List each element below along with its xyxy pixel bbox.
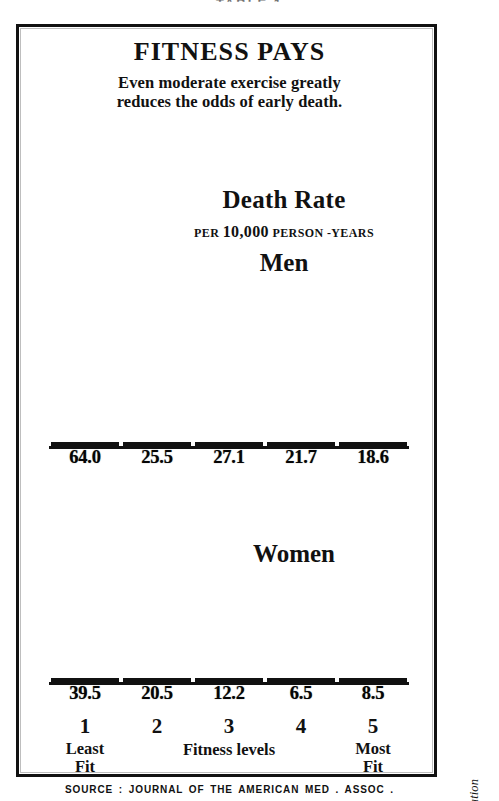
most-fit-line-2: Fit: [337, 758, 409, 776]
bar-value-men-1: 64.0: [53, 447, 117, 468]
axis-caption-most-fit: Most Fit: [337, 740, 409, 776]
axis-baseline-women: [49, 682, 409, 685]
credit-journal: Journal of the American Medical Associat…: [467, 779, 481, 801]
bar-value-women-3: 12.2: [197, 683, 261, 704]
x-axis-tick-labels: 1 2 3 4 5: [49, 714, 409, 739]
axis-title-fitness-levels: Fitness levels: [121, 740, 337, 759]
bar-panel-men: 64.0 25.5 27.1 21.7 18.6: [49, 104, 409, 449]
bar-value-women-2: 20.5: [125, 683, 189, 704]
least-fit-line-1: Least: [49, 740, 121, 758]
bar-value-men-4: 21.7: [269, 447, 333, 468]
x-tick-2: 2: [121, 714, 193, 739]
bar-panel-women: 39.5 20.5 12.2 6.5 8.5: [49, 470, 409, 685]
bar-group-men: 64.0 25.5 27.1 21.7 18.6: [49, 104, 409, 446]
bar-value-women-1: 39.5: [53, 683, 117, 704]
bar-group-women: 39.5 20.5 12.2 6.5 8.5: [49, 470, 409, 682]
source-note: SOURCE : JOURNAL OF THE AMERICAN MED . A…: [19, 784, 440, 795]
figure-frame: FITNESS PAYS Even moderate exercise grea…: [16, 24, 437, 777]
chart-headline: FITNESS PAYS: [19, 37, 440, 67]
plate-caption: TABLE 1: [0, 0, 499, 11]
bar-value-men-3: 27.1: [197, 447, 261, 468]
x-tick-1: 1: [49, 714, 121, 739]
most-fit-line-1: Most: [337, 740, 409, 758]
copyright-credit: © Newsweek, 13 November 1989, Journal of…: [467, 779, 482, 801]
axis-caption-least-fit: Least Fit: [49, 740, 121, 776]
x-tick-4: 4: [265, 714, 337, 739]
bar-value-men-2: 25.5: [125, 447, 189, 468]
x-tick-5: 5: [337, 714, 409, 739]
bar-value-men-5: 18.6: [341, 447, 405, 468]
least-fit-line-2: Fit: [49, 758, 121, 776]
x-tick-3: 3: [193, 714, 265, 739]
x-axis-captions: Least Fit Fitness levels Most Fit: [49, 740, 409, 776]
bar-value-women-4: 6.5: [269, 683, 333, 704]
subhead-line-1: Even moderate exercise greatly: [19, 73, 440, 92]
bar-value-women-5: 8.5: [341, 683, 405, 704]
axis-baseline-men: [49, 446, 409, 449]
